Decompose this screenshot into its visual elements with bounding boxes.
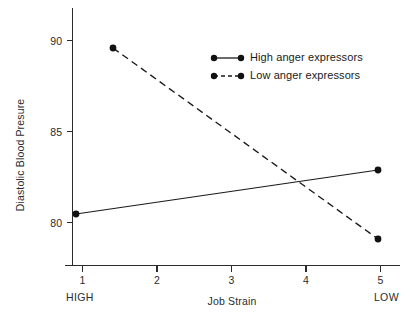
y-tick-label-90: 90 xyxy=(50,35,62,47)
data-point-high-anger-low-strain xyxy=(375,167,382,174)
chart-figure: 90 85 80 1 2 3 4 5 xyxy=(0,0,413,319)
legend-entry-low-anger: Low anger expressors xyxy=(211,69,361,81)
x-endpoint-label-high: HIGH xyxy=(66,291,94,303)
x-tick-label-3: 3 xyxy=(229,274,235,286)
x-endpoint-label-low: LOW xyxy=(374,291,399,303)
legend-marker-right-high-anger xyxy=(238,55,244,61)
y-tick-label-80: 80 xyxy=(50,217,62,229)
x-axis-title: Job Strain xyxy=(208,295,257,307)
y-axis-ticks: 90 85 80 xyxy=(50,35,72,229)
legend-marker-left-low-anger xyxy=(211,73,217,79)
y-tick-label-85: 85 xyxy=(50,126,62,138)
data-point-low-anger-low-strain xyxy=(375,236,382,243)
x-tick-label-2: 2 xyxy=(154,274,160,286)
series-high-anger-line xyxy=(76,170,378,214)
legend-label-high-anger: High anger expressors xyxy=(250,51,363,63)
chart-legend: High anger expressors Low anger expresso… xyxy=(211,51,363,81)
x-axis-ticks: 1 2 3 4 5 xyxy=(80,266,384,287)
legend-entry-high-anger: High anger expressors xyxy=(211,51,363,63)
series-high-anger-expressors xyxy=(73,167,382,218)
data-point-high-anger-high-strain xyxy=(73,211,80,218)
x-tick-label-5: 5 xyxy=(378,274,384,286)
legend-marker-right-low-anger xyxy=(238,73,244,79)
legend-marker-left-high-anger xyxy=(211,55,217,61)
legend-label-low-anger: Low anger expressors xyxy=(250,69,361,81)
data-point-low-anger-high-strain xyxy=(110,45,117,52)
y-axis-title: Diastolic Blood Presure xyxy=(14,99,26,212)
line-chart-canvas: 90 85 80 1 2 3 4 5 xyxy=(0,0,413,319)
x-tick-label-4: 4 xyxy=(303,274,309,286)
x-tick-label-1: 1 xyxy=(80,274,86,286)
